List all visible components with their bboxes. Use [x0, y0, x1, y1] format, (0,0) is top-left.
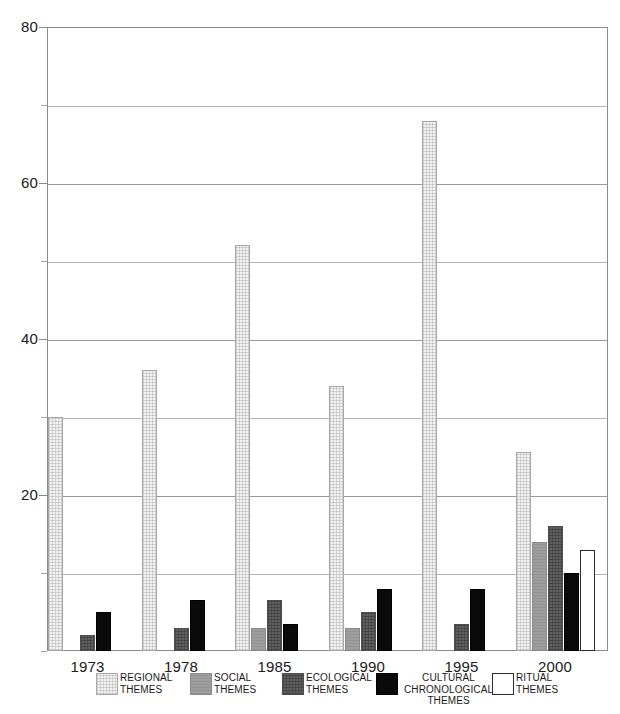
- legend-swatch-social-icon: [190, 673, 212, 695]
- y-tick-label: 80: [2, 18, 38, 35]
- bar-1990-cultural: [377, 589, 392, 651]
- legend-swatch-ecological-icon: [282, 673, 304, 695]
- legend-item-regional[interactable]: REGIONAL THEMES: [96, 672, 172, 695]
- bar-chart: 80604020 197319781985199019952000 REGION…: [0, 0, 620, 714]
- bar-1990-social: [345, 628, 360, 651]
- bar-1973-cultural: [96, 612, 111, 651]
- bar-1985-regional: [235, 245, 250, 651]
- bar-1985-ecological: [267, 600, 282, 651]
- bar-1978-cultural: [190, 600, 205, 651]
- bar-2000-ritual: [580, 550, 595, 651]
- y-tick-mark-20: [39, 495, 47, 496]
- legend-swatch-ritual-icon: [492, 673, 514, 695]
- bar-2000-ecological: [548, 526, 563, 651]
- legend-label: ECOLOGICAL THEMES: [306, 672, 372, 695]
- y-tick-label: 60: [2, 174, 38, 191]
- bar-1990-ecological: [361, 612, 376, 651]
- legend-label: RITUAL THEMES: [516, 672, 558, 695]
- bar-2000-regional: [516, 452, 531, 651]
- bar-1973-regional: [48, 417, 63, 651]
- chart-legend: REGIONAL THEMESSOCIAL THEMESECOLOGICAL T…: [96, 672, 546, 714]
- legend-swatch-regional-icon: [96, 673, 118, 695]
- legend-item-cultural[interactable]: CULTURAL CHRONOLOGICAL THEMES: [376, 672, 493, 707]
- legend-label: CULTURAL CHRONOLOGICAL THEMES: [404, 672, 493, 707]
- bar-1995-cultural: [470, 589, 485, 651]
- y-tick-mark-0: [41, 651, 47, 652]
- bar-1995-ecological: [454, 624, 469, 651]
- bars-layer: [47, 27, 608, 651]
- legend-item-ecological[interactable]: ECOLOGICAL THEMES: [282, 672, 372, 695]
- y-tick-mark-80: [39, 27, 47, 28]
- bar-1973-ecological: [80, 635, 95, 651]
- legend-item-social[interactable]: SOCIAL THEMES: [190, 672, 256, 695]
- y-tick-mark-60: [39, 183, 47, 184]
- bar-1995-regional: [422, 121, 437, 651]
- legend-item-ritual[interactable]: RITUAL THEMES: [492, 672, 558, 695]
- bar-1978-regional: [142, 370, 157, 651]
- legend-label: SOCIAL THEMES: [214, 672, 256, 695]
- bar-2000-social: [532, 542, 547, 651]
- bar-1985-social: [251, 628, 266, 651]
- y-tick-label: 20: [2, 486, 38, 503]
- legend-swatch-cultural-icon: [376, 673, 398, 695]
- legend-label: REGIONAL THEMES: [120, 672, 172, 695]
- y-tick-mark-40: [39, 339, 47, 340]
- bar-1978-ecological: [174, 628, 189, 651]
- bar-2000-cultural: [564, 573, 579, 651]
- bar-1990-regional: [329, 386, 344, 651]
- bar-1985-cultural: [283, 624, 298, 651]
- y-tick-label: 40: [2, 330, 38, 347]
